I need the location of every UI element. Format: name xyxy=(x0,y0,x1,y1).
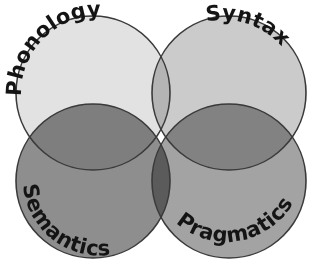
venn-diagram: Phonology Syntax Semantics Pragmatics xyxy=(0,0,322,272)
venn-diagram-canvas: Phonology Syntax Semantics Pragmatics xyxy=(0,0,322,272)
